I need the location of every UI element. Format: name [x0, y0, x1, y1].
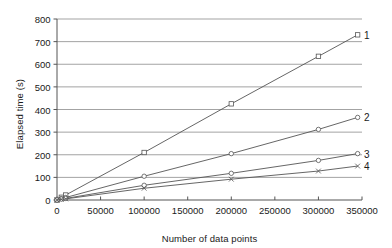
series-line-2	[57, 117, 358, 200]
y-tick-label: 800	[8, 14, 51, 25]
series-end-label-3: 3	[364, 148, 370, 159]
series-marker-1	[229, 102, 233, 106]
x-tick-label: 250000	[259, 205, 291, 216]
y-tick-label: 300	[8, 127, 51, 138]
x-tick-label: 300000	[303, 205, 335, 216]
series-marker-2	[142, 174, 146, 178]
series-marker-2	[229, 151, 233, 155]
x-tick-label: 150000	[172, 205, 204, 216]
series-marker-2	[316, 127, 320, 131]
y-tick-label: 100	[8, 172, 51, 183]
series-line-3	[57, 154, 358, 200]
series-end-label-4: 4	[364, 161, 370, 172]
series-marker-3	[355, 151, 359, 155]
series-end-label-1: 1	[364, 29, 370, 40]
series-marker-2	[355, 115, 359, 119]
x-tick-label: 200000	[215, 205, 247, 216]
x-tick-label: 50000	[87, 205, 113, 216]
x-tick-label: 100000	[128, 205, 160, 216]
series-marker-1	[142, 150, 146, 154]
chart-figure: Elapsed time (s) Number of data points 0…	[0, 0, 392, 248]
series-line-4	[57, 166, 358, 200]
series-end-label-2: 2	[364, 112, 370, 123]
series-line-1	[57, 35, 358, 200]
x-tick-label: 350000	[346, 205, 378, 216]
series-marker-1	[355, 33, 359, 37]
y-tick-label: 200	[8, 149, 51, 160]
series-marker-3	[229, 171, 233, 175]
y-tick-label: 400	[8, 104, 51, 115]
y-tick-label: 700	[8, 36, 51, 47]
series-marker-1	[316, 54, 320, 58]
series-marker-3	[316, 158, 320, 162]
y-tick-label: 600	[8, 59, 51, 70]
y-tick-label: 500	[8, 81, 51, 92]
x-tick-label: 0	[54, 205, 59, 216]
y-tick-label: 0	[8, 195, 51, 206]
